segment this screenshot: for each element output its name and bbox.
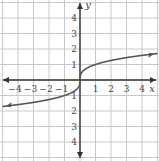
y-tick-label: 4 [71, 137, 77, 147]
x-tick-label: 1 [93, 84, 99, 94]
x-tick-label: −2 [39, 84, 52, 94]
plot-area: −4−3−2−1123443211234xy [0, 0, 159, 161]
y-tick-label: 3 [71, 122, 77, 132]
x-tick-label: 2 [108, 84, 114, 94]
y-tick-label: 3 [71, 29, 77, 39]
y-tick-label: 2 [71, 44, 77, 54]
cube-root-graph: −4−3−2−1123443211234xy [0, 0, 159, 161]
x-axis-label: x [149, 83, 155, 94]
x-tick-label: −4 [8, 84, 22, 94]
y-tick-label: 2 [71, 106, 77, 116]
x-axis-left-arrow-icon [3, 77, 9, 83]
y-tick-label: 4 [71, 13, 77, 23]
x-tick-label: −1 [55, 84, 68, 94]
y-axis-label: y [84, 0, 91, 10]
y-axis-up-arrow-icon [77, 3, 83, 9]
x-tick-label: 4 [139, 84, 145, 94]
x-tick-label: −3 [24, 84, 38, 94]
x-tick-label: 3 [124, 84, 130, 94]
y-tick-label: 1 [71, 60, 77, 70]
